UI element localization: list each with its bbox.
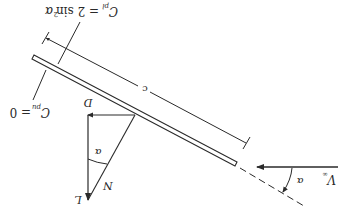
alpha-flow-label: α [296, 176, 303, 187]
drag-label: D [83, 96, 93, 109]
chord-extension-dashed [240, 168, 304, 206]
flat-plate-diagram: c C pl = 2 sin 2 α C pu = 0 D L N α α V … [0, 0, 352, 218]
freestream-label: V ∞ [322, 170, 336, 186]
alpha-arc-force [88, 159, 107, 164]
cp-upper-label: C pu = 0 [9, 103, 50, 119]
svg-text:pu: pu [32, 103, 41, 111]
chord-label: c [142, 84, 148, 95]
cp-lower-leader [58, 22, 80, 64]
normal-force-label: N [103, 179, 114, 192]
alpha-force-label: α [94, 147, 101, 158]
svg-text:= 0: = 0 [9, 105, 31, 119]
svg-text:pl: pl [102, 2, 109, 10]
cp-upper-leader [33, 70, 46, 100]
lift-label: L [74, 193, 82, 206]
svg-text:C: C [41, 105, 50, 119]
cp-lower-label: C pl = 2 sin 2 α [45, 2, 118, 18]
flat-plate [32, 55, 237, 166]
svg-text:C: C [109, 4, 118, 18]
svg-text:α: α [45, 4, 53, 18]
svg-text:2: 2 [54, 10, 58, 18]
alpha-arc-flow [283, 168, 292, 192]
svg-text:= 2 sin: = 2 sin [56, 4, 99, 18]
svg-text:∞: ∞ [322, 170, 328, 178]
